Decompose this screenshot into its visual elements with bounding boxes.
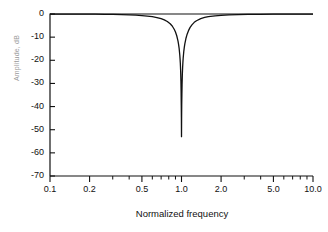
- plot-area: [0, 0, 328, 232]
- x-tick-label: 5.0: [256, 184, 290, 194]
- y-tick-label: 0: [16, 8, 44, 18]
- y-tick-label: -10: [16, 31, 44, 41]
- x-axis-title: Normalized frequency: [50, 208, 314, 219]
- x-tick-label: 1.0: [165, 184, 199, 194]
- x-tick-label: 10.0: [296, 184, 328, 194]
- x-tick-label: 0.1: [33, 184, 67, 194]
- y-tick-label: -30: [16, 77, 44, 87]
- x-tick-label: 0.2: [73, 184, 107, 194]
- x-tick-label: 2.0: [204, 184, 238, 194]
- y-tick-label: -50: [16, 124, 44, 134]
- data-series-line: [50, 14, 313, 137]
- x-tick-label: 0.5: [125, 184, 159, 194]
- y-tick-label: -60: [16, 147, 44, 157]
- y-tick-label: -70: [16, 170, 44, 180]
- y-tick-label: -20: [16, 54, 44, 64]
- chart-figure: Amplitude, dB 0-10-20-30-40-50-60-70 0.1…: [0, 0, 328, 232]
- y-tick-label: -40: [16, 101, 44, 111]
